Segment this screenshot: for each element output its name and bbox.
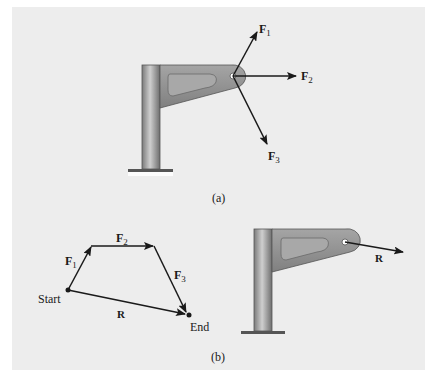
label-end: End [190, 320, 209, 334]
force-arrows-a [233, 32, 296, 144]
base-plate-b [241, 331, 285, 334]
arrow-f3 [233, 76, 267, 144]
post-b [254, 229, 272, 331]
arrow-f1 [233, 32, 257, 76]
vector-addition-figure: F1 F2 F3 (a) F1 F2 F3 Start R End (b) R [0, 0, 437, 376]
arrow-r-b [68, 290, 185, 314]
base-plate-shadow [128, 172, 173, 176]
label-r-polygon: R [117, 308, 126, 320]
caption-b: (b) [211, 350, 225, 364]
label-f2-a: F2 [301, 69, 313, 85]
label-f3-a: F3 [268, 149, 280, 165]
label-f1-a: F1 [259, 22, 271, 38]
label-start: Start [38, 292, 61, 306]
start-point [66, 288, 71, 293]
bracket-a [128, 65, 246, 176]
label-f1-b: F1 [65, 254, 77, 270]
base-plate [128, 169, 173, 172]
caption-a: (a) [212, 191, 225, 205]
force-polygon [66, 246, 192, 318]
bracket-b [241, 229, 403, 334]
label-f2-b: F2 [116, 231, 128, 247]
end-point [187, 313, 192, 318]
label-f3-b: F3 [174, 268, 186, 284]
label-r-bracket: R [375, 252, 384, 264]
post [142, 65, 160, 169]
